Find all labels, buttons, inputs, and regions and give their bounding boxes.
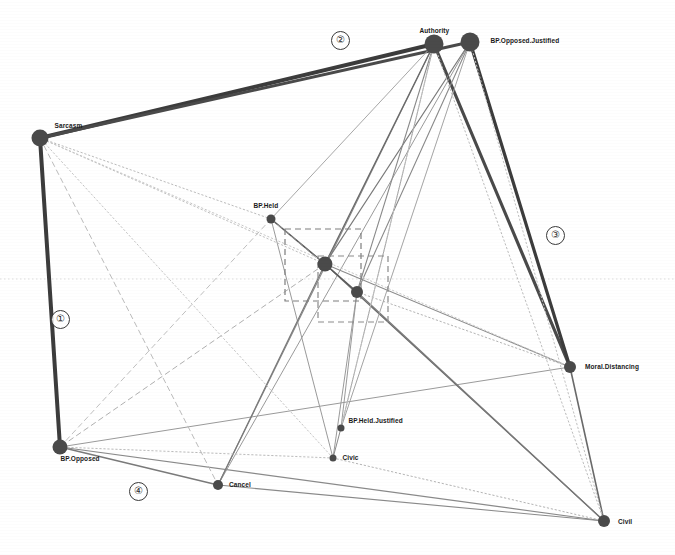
graph-edge (357, 292, 604, 521)
graph-node-cancel[interactable] (213, 480, 223, 490)
graph-canvas (0, 0, 675, 555)
graph-edge (470, 42, 570, 367)
graph-edge (325, 44, 434, 264)
badge-3: ③ (546, 226, 565, 245)
graph-edge (40, 138, 271, 219)
graph-edge (570, 367, 604, 521)
graph-edge (271, 219, 333, 458)
graph-node-cluster_b[interactable] (351, 286, 363, 298)
node-label-bp_held_just: BP.Held.Justified (349, 417, 403, 424)
graph-node-civic[interactable] (330, 455, 337, 462)
graph-edge (60, 367, 570, 447)
node-label-bp_opposed_just: BP.Opposed.Justified (491, 37, 560, 44)
graph-edge (60, 447, 218, 485)
graph-node-cluster_a[interactable] (318, 257, 333, 272)
node-layer (32, 33, 611, 528)
node-label-civil: Civil (618, 518, 632, 525)
graph-node-bp_held_just[interactable] (338, 425, 345, 432)
graph-edge (40, 42, 470, 138)
graph-edge (218, 264, 325, 485)
graph-node-moral_distancing[interactable] (564, 361, 576, 373)
graph-edge (357, 292, 570, 367)
graph-edge (40, 138, 60, 447)
badge-2: ② (331, 31, 350, 50)
badge-1: ① (51, 310, 70, 329)
node-label-bp_opposed: BP.Opposed (61, 455, 100, 462)
graph-edge (357, 44, 434, 292)
node-label-authority: Authority (420, 27, 450, 34)
graph-edge (218, 485, 604, 521)
node-label-bp_held: BP.Held (254, 202, 279, 209)
graph-edge (341, 292, 357, 428)
graph-node-authority[interactable] (425, 35, 444, 54)
graph-edge (40, 138, 333, 458)
graph-edge (325, 42, 470, 264)
graph-edge (60, 219, 271, 447)
graph-edge (470, 42, 604, 521)
node-label-cancel: Cancel (229, 481, 251, 488)
graph-edge (271, 44, 434, 219)
node-label-civic: Civic (343, 454, 359, 461)
graph-node-bp_opposed[interactable] (53, 440, 68, 455)
graph-node-bp_opposed_just[interactable] (461, 33, 480, 52)
edge-layer (40, 42, 604, 521)
network-graph-figure: SarcasmAuthorityBP.Opposed.JustifiedBP.H… (0, 0, 675, 555)
graph-node-bp_held[interactable] (267, 215, 276, 224)
graph-edge (40, 138, 325, 264)
graph-node-civil[interactable] (598, 515, 610, 527)
graph-edge (434, 44, 604, 521)
badge-4: ④ (129, 482, 148, 501)
node-label-moral_distancing: Moral.Distancing (585, 363, 639, 370)
graph-node-sarcasm[interactable] (32, 130, 49, 147)
node-label-sarcasm: Sarcasm (55, 122, 83, 129)
